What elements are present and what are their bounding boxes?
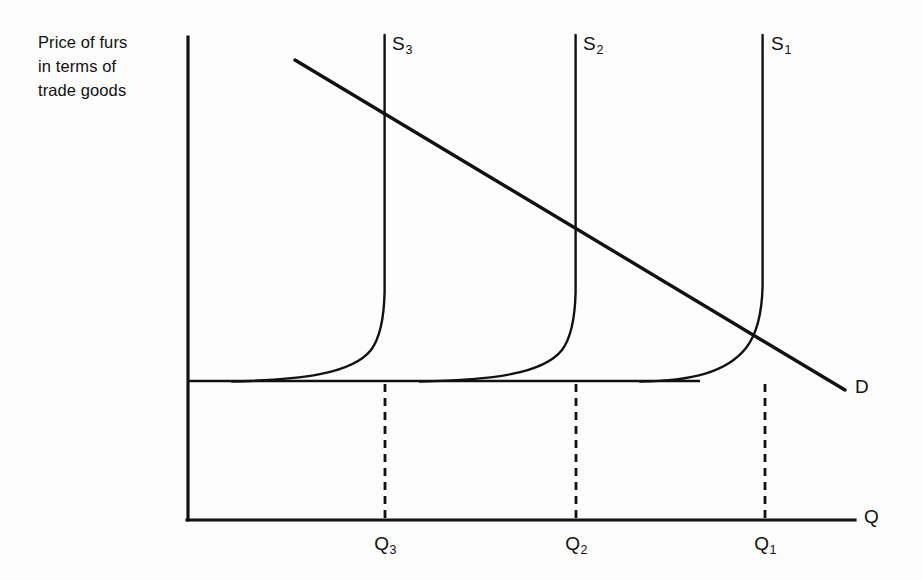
quantity-label-q2-base: Q	[565, 533, 580, 554]
y-axis-label: Price of furs in terms of trade goods	[38, 30, 218, 102]
supply-label-s2: S2	[583, 33, 603, 55]
quantity-label-q1: Q1	[754, 533, 776, 555]
supply-label-s1-base: S	[771, 33, 784, 54]
supply-label-s1-sub: 1	[784, 43, 791, 57]
supply-demand-figure: Price of furs in terms of trade goods S3…	[0, 0, 922, 580]
quantity-label-q3-sub: 3	[389, 543, 396, 557]
supply-label-s3-sub: 3	[405, 43, 412, 57]
supply-label-s2-sub: 2	[596, 43, 603, 57]
supply-label-s1: S1	[771, 33, 791, 55]
quantity-label-q1-sub: 1	[769, 543, 776, 557]
supply-label-s3: S3	[392, 33, 412, 55]
quantity-label-q3-base: Q	[374, 533, 389, 554]
supply-curve-s3	[232, 35, 385, 382]
x-axis-name: Q	[864, 506, 879, 528]
quantity-label-q2: Q2	[565, 533, 587, 555]
supply-curve-s2	[420, 35, 576, 382]
quantity-label-q1-base: Q	[754, 533, 769, 554]
supply-label-s3-base: S	[392, 33, 405, 54]
demand-label: D	[855, 376, 869, 398]
quantity-label-q2-sub: 2	[580, 543, 587, 557]
supply-label-s2-base: S	[583, 33, 596, 54]
quantity-label-q3: Q3	[374, 533, 396, 555]
